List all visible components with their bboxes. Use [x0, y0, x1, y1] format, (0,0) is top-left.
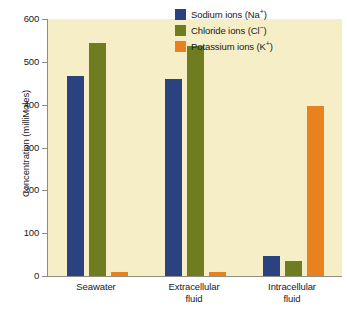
chart-legend: Sodium ions (Na+)Chloride ions (Cl−)Pota…	[175, 8, 273, 53]
plot-panel	[47, 19, 342, 277]
legend-swatch-icon	[175, 25, 186, 36]
bar	[285, 261, 302, 276]
bar	[89, 43, 106, 276]
y-tick-label: 200	[3, 184, 39, 195]
x-axis-category-label-line: Extracellular	[145, 281, 243, 293]
bar	[111, 272, 128, 276]
x-axis-category-label-line: Intracellular	[243, 281, 341, 293]
y-tick-label: 100	[3, 227, 39, 238]
legend-label: Sodium ions (Na+)	[191, 9, 267, 20]
y-tick-label: 500	[3, 56, 39, 67]
x-axis-category-label: Intracellularfluid	[243, 281, 341, 304]
legend-swatch-icon	[175, 41, 186, 52]
bar-chart: Concentration (milliMoles) 0100200300400…	[0, 0, 347, 315]
x-axis-category-label: Extracellularfluid	[145, 281, 243, 304]
x-axis-category-label-line: Seawater	[47, 281, 145, 293]
bar	[165, 79, 182, 276]
legend-swatch-icon	[175, 9, 186, 20]
y-tick-label: 0	[3, 270, 39, 281]
x-axis-category-label-line: fluid	[145, 293, 243, 305]
x-axis-category-label: Seawater	[47, 281, 145, 293]
bar	[209, 272, 226, 276]
x-axis-labels: SeawaterExtracellularfluidIntracellularf…	[47, 281, 342, 315]
bar	[187, 46, 204, 276]
y-axis-ticks: 0100200300400500600	[0, 0, 48, 315]
legend-label: Potassium ions (K+)	[191, 41, 273, 52]
x-axis-category-label-line: fluid	[243, 293, 341, 305]
legend-label: Chloride ions (Cl−)	[191, 25, 267, 36]
bar	[307, 106, 324, 276]
bar	[67, 76, 84, 276]
y-tick-label: 400	[3, 99, 39, 110]
legend-item[interactable]: Potassium ions (K+)	[175, 40, 273, 53]
bar	[263, 256, 280, 276]
legend-item[interactable]: Sodium ions (Na+)	[175, 8, 273, 21]
y-tick-label: 300	[3, 142, 39, 153]
plot-area	[48, 19, 342, 276]
y-tick-label: 600	[3, 13, 39, 24]
legend-item[interactable]: Chloride ions (Cl−)	[175, 24, 273, 37]
